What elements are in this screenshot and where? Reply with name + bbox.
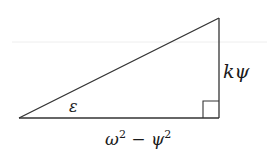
right-angle-marker (203, 101, 219, 118)
angle-label-epsilon: ε (69, 97, 78, 116)
right-triangle-diagram: ε kψ ω2 − ψ2 (0, 0, 267, 159)
base-side-label: ω2 − ψ2 (105, 128, 171, 149)
vertical-side-label: kψ (223, 60, 251, 82)
base-minus: − (126, 129, 151, 149)
base-psi: ψ (151, 129, 165, 149)
base-exp2: 2 (164, 128, 171, 141)
base-omega: ω (105, 129, 119, 149)
hypotenuse (19, 18, 219, 118)
base-exp1: 2 (119, 128, 126, 141)
